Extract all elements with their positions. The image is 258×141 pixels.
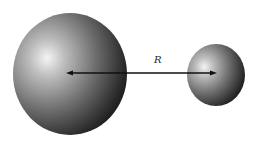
distance-label: R — [153, 54, 162, 65]
gravitation-diagram: R — [0, 0, 258, 141]
small-sphere — [187, 44, 245, 106]
